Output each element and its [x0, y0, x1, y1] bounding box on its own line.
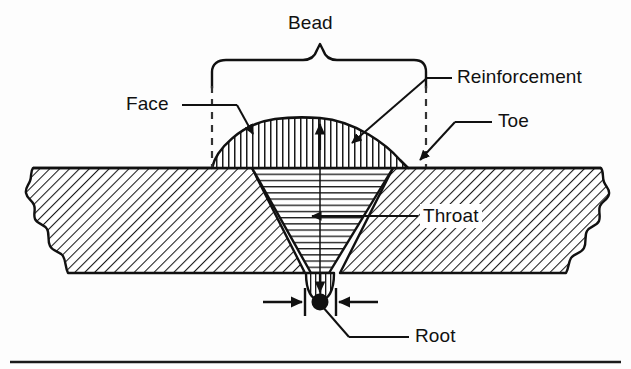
label-root: Root — [415, 325, 456, 347]
root-dot — [312, 294, 329, 311]
label-toe: Toe — [498, 110, 529, 132]
bead-crown-region — [212, 117, 408, 168]
label-throat: Throat — [420, 204, 482, 228]
toe-leader — [420, 122, 492, 160]
bead-brace — [212, 44, 426, 88]
label-reinforcement: Reinforcement — [457, 66, 582, 88]
label-face: Face — [126, 93, 169, 115]
weld-cross-section-diagram — [0, 0, 631, 369]
diagram-page: Bead Face Reinforcement Toe Throat Root — [0, 0, 631, 369]
label-bead: Bead — [288, 12, 333, 34]
